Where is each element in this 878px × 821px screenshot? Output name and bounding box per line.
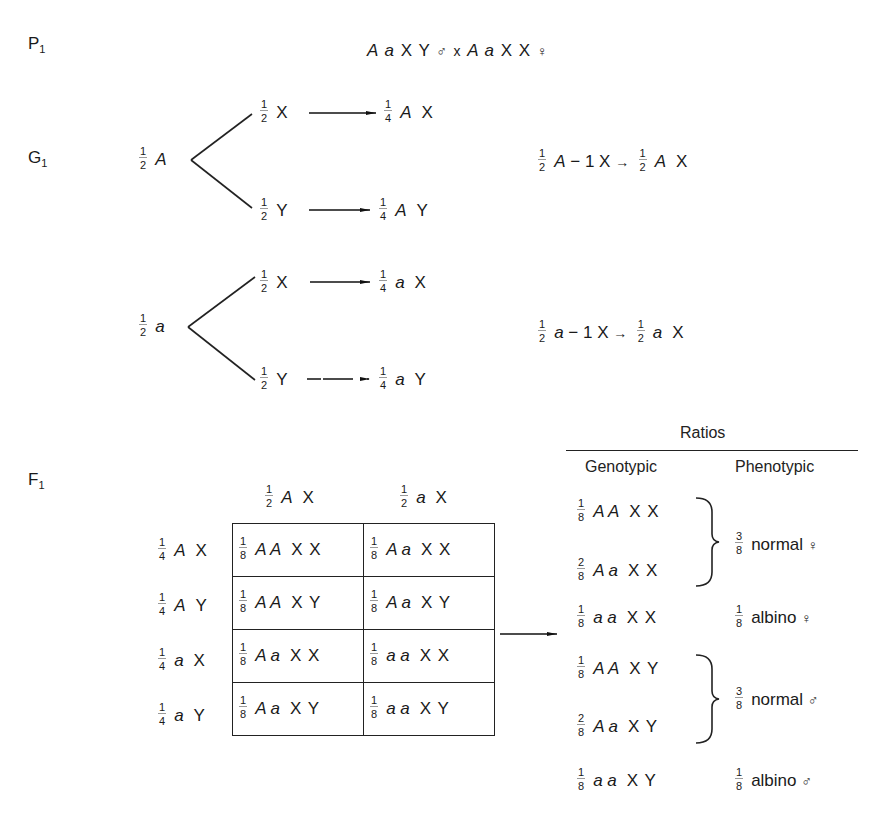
chromosome: Y (276, 370, 287, 390)
alleles: A a (593, 561, 618, 581)
gamete-result: 14 a Y (379, 365, 426, 395)
chromosomes: X X (629, 502, 659, 522)
fraction: 14 (158, 647, 166, 673)
allele: A (174, 596, 185, 616)
chromosome: X (597, 323, 608, 343)
chromosome: X (436, 488, 447, 508)
phenotypic-ratio-item: 18 albino ♀ (735, 603, 812, 633)
punnett-row-header: 14 a X (158, 646, 205, 676)
chromosome: X (421, 103, 432, 123)
allele: a (395, 273, 404, 293)
genotypic-ratio-item: 18 A A X X (577, 497, 660, 527)
ratios-title: Ratios (680, 424, 725, 442)
branch-line (188, 327, 255, 380)
count: 1 (585, 152, 594, 172)
fraction: 12 (265, 484, 273, 510)
allele: A (395, 201, 406, 221)
chromosome: Y (195, 596, 206, 616)
alleles: A a (386, 593, 411, 613)
chromosome: X (276, 273, 287, 293)
chromosome: Y (415, 370, 426, 390)
chromosomes: X Y (628, 717, 658, 737)
alleles: A A (593, 502, 619, 522)
punnett-cell: 18 A a X X (364, 524, 495, 577)
fraction: 12 (637, 319, 645, 345)
punnett-cell: 18 A a X Y (233, 683, 364, 736)
allele: a (416, 488, 425, 508)
genotypic-ratio-item: 18 A A X Y (577, 654, 659, 684)
punnett-col-header: 12 A X (265, 483, 314, 513)
punnett-cell: 18 A a X X (233, 630, 364, 683)
chromosome: X (415, 273, 426, 293)
chromosome: Y (276, 201, 287, 221)
allele: A (281, 488, 292, 508)
chromosome: X (194, 651, 205, 671)
gamete-branch: 12 X (260, 268, 287, 298)
chromosome: X (302, 488, 313, 508)
punnett-cell: 18 a a X X (364, 630, 495, 683)
allele: a (155, 317, 164, 337)
fraction: 12 (639, 148, 647, 174)
punnett-cell: 18 A A X X (233, 524, 364, 577)
chromosomes: X Y (421, 593, 451, 613)
fraction: 14 (384, 99, 392, 125)
fraction: 14 (379, 197, 387, 223)
chromosomes: X X (627, 608, 657, 628)
gamete-allele-a: 12 a (139, 312, 165, 342)
phenotypic-ratio-item: 38 normal ♂ (735, 685, 818, 715)
dash: − (568, 323, 578, 343)
phenotypic-ratio-item: 38 normal ♀ (735, 530, 818, 560)
phenotypic-header: Phenotypic (735, 458, 814, 476)
phenotype-label: albino (751, 608, 796, 628)
fraction: 12 (260, 197, 268, 223)
punnett-cell: 18 a a X Y (364, 683, 495, 736)
phenotype-label: albino (751, 771, 796, 791)
chromosome: X (676, 152, 687, 172)
alleles: A A (593, 659, 619, 679)
alleles: a a (386, 699, 410, 719)
gamete-result: 14 A X (384, 98, 433, 128)
punnett-col-header: 12 a X (400, 483, 447, 513)
allele: a (174, 651, 183, 671)
table-row: 18 A a X X 18 a a X X (233, 630, 495, 683)
chromosomes: X X (291, 540, 321, 560)
chromosomes: X Y (420, 699, 450, 719)
allele: A (655, 152, 666, 172)
chromosome: X (672, 323, 683, 343)
fraction: 14 (158, 592, 166, 618)
female-symbol-icon: ♀ (801, 610, 812, 626)
fraction: 12 (538, 148, 546, 174)
chromosome: Y (416, 201, 427, 221)
fraction: 14 (379, 269, 387, 295)
fraction: 14 (158, 702, 166, 728)
chromosome: X (599, 152, 610, 172)
female-gamete-equation: 12 a − 1 X → 12 a X (538, 318, 684, 348)
brace-icon (696, 498, 719, 586)
gamete-branch: 12 X (260, 98, 287, 128)
fraction: 12 (260, 366, 268, 392)
female-symbol-icon: ♀ (808, 537, 819, 553)
phenotype-label: normal (751, 535, 803, 555)
dash: − (570, 152, 580, 172)
phenotype-label: normal (751, 690, 803, 710)
fraction: 12 (139, 313, 147, 339)
arrow-icon: → (615, 154, 629, 170)
genotypic-ratio-item: 18 a a X Y (577, 766, 657, 796)
punnett-row-header: 14 a Y (158, 701, 205, 731)
chromosomes: X Y (629, 659, 659, 679)
punnett-row-header: 14 A X (158, 536, 207, 566)
alleles: A A (255, 593, 281, 613)
gamete-result: 14 a X (379, 268, 426, 298)
ratios-divider (566, 450, 858, 451)
allele: a (395, 370, 404, 390)
fraction: 14 (379, 366, 387, 392)
alleles: A a (386, 540, 411, 560)
arrow-icon: → (613, 325, 627, 341)
fraction: 12 (139, 146, 147, 172)
genotypic-ratio-item: 28 A a X Y (577, 712, 658, 742)
genotypic-ratio-item: 28 A a X X (577, 556, 658, 586)
gamete-branch: 12 Y (260, 365, 287, 395)
chromosomes: X X (290, 646, 320, 666)
fraction: 12 (400, 484, 408, 510)
chromosome: Y (194, 706, 205, 726)
